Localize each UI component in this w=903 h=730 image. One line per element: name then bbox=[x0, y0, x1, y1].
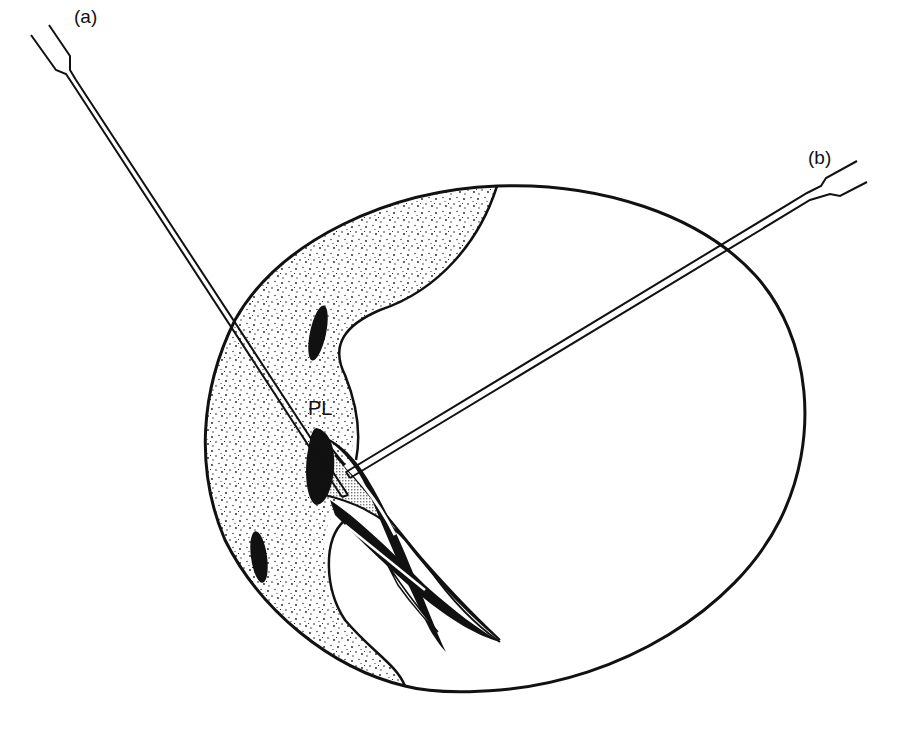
diagram-svg bbox=[0, 0, 903, 730]
electrode-a-label: (a) bbox=[74, 7, 97, 26]
region-pl-label: PL bbox=[308, 398, 332, 418]
diagram-canvas: (a) (b) PL bbox=[0, 0, 903, 730]
electrode-b-label: (b) bbox=[808, 148, 831, 167]
